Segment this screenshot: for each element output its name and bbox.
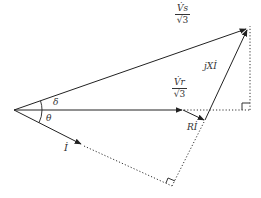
vr-label-numerator: V̇r (172, 78, 187, 89)
vs-label-denominator: √3 (175, 15, 190, 25)
phasor-diagram: V̇s √3 V̇r √3 jXİ Rİ İ δ θ (0, 0, 261, 198)
vr-label-denominator: √3 (172, 89, 187, 99)
ri-phasor-arrow (183, 110, 204, 120)
angle-arcs (39, 101, 42, 123)
jxi-label: jXİ (204, 62, 217, 71)
phasor-diagram-canvas (0, 0, 261, 198)
right-angle-marker-horizontal (242, 103, 250, 110)
jxi-phasor-arrow (205, 30, 247, 120)
theta-label: θ (46, 114, 51, 123)
delta-label: δ (53, 98, 58, 107)
vs-label: V̇s √3 (175, 4, 190, 25)
ri-label: Rİ (187, 123, 197, 132)
vr-label: V̇r √3 (172, 78, 187, 99)
delta-arc (41, 101, 43, 110)
current-extension-line (84, 146, 172, 186)
vs-label-numerator: V̇s (175, 4, 190, 15)
theta-arc (39, 110, 42, 123)
right-angle-markers (166, 103, 250, 183)
current-label: İ (64, 143, 68, 153)
construction-lines (84, 26, 250, 186)
